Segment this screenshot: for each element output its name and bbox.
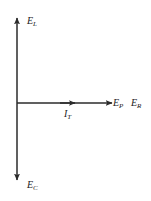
- axis-label-ep-subscript: P: [119, 102, 123, 110]
- axis-label-el-subscript: L: [33, 20, 37, 28]
- phasor-diagram: EL EC EP ER IT: [0, 0, 151, 201]
- axis-label-total-current: IT: [64, 109, 71, 119]
- axis-label-applied-voltage: EP: [113, 98, 123, 108]
- axis-label-er-subscript: R: [137, 102, 141, 110]
- axis-label-ec-subscript: C: [33, 184, 38, 192]
- axis-label-resistive-voltage: ER: [131, 98, 141, 108]
- axis-label-it-subscript: T: [67, 113, 71, 121]
- phasor-diagram-canvas: [0, 0, 151, 201]
- axis-label-capacitive-voltage: EC: [27, 180, 38, 190]
- axis-label-inductive-voltage: EL: [27, 16, 37, 26]
